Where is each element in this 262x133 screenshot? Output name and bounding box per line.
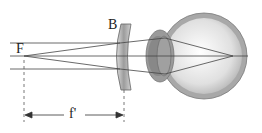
- diverging-lens: [117, 24, 132, 90]
- focal-point-label: F: [16, 42, 24, 56]
- focal-length-label: f': [69, 107, 76, 121]
- diagram-canvas: [0, 0, 262, 133]
- lens-label: B: [108, 18, 117, 32]
